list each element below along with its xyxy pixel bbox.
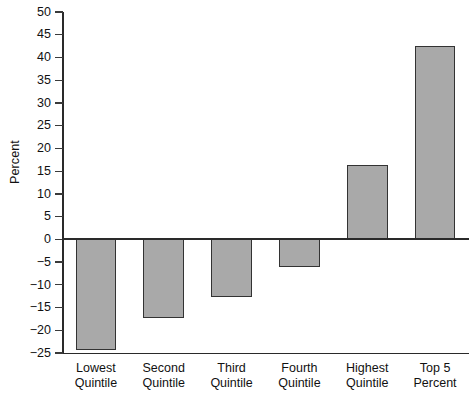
y-tick-mark — [55, 261, 63, 262]
x-axis-label-lowest-quintile: LowestQuintile — [62, 361, 130, 390]
y-tick-label: 10 — [5, 188, 51, 201]
category-label-line: Lowest — [62, 361, 130, 376]
y-axis-line — [62, 12, 64, 354]
category-label-line: Quintile — [198, 376, 266, 391]
category-label-line: Third — [198, 361, 266, 376]
x-axis-label-highest-quintile: HighestQuintile — [333, 361, 401, 390]
y-tick-label: 0 — [5, 233, 51, 246]
x-axis-label-top-5-percent: Top 5Percent — [401, 361, 469, 390]
bar-chart: Percent 50454035302520151050−5−10−15−20−… — [0, 0, 475, 400]
y-tick-label: 20 — [5, 142, 51, 155]
y-tick-label: 40 — [5, 51, 51, 64]
y-tick-mark — [55, 171, 63, 172]
category-label-line: Second — [130, 361, 198, 376]
x-axis-line — [62, 353, 469, 355]
y-tick-label: 50 — [5, 6, 51, 19]
bar-second-quintile — [143, 239, 184, 318]
y-tick-mark — [55, 216, 63, 217]
y-tick-mark — [55, 330, 63, 331]
y-tick-mark — [55, 34, 63, 35]
y-tick-label: −20 — [5, 324, 51, 337]
category-label-line: Quintile — [130, 376, 198, 391]
y-tick-label: −5 — [5, 256, 51, 269]
y-tick-mark — [55, 352, 63, 353]
y-tick-label: 45 — [5, 28, 51, 41]
y-tick-mark — [55, 193, 63, 194]
bar-highest-quintile — [347, 165, 388, 239]
category-label-line: Quintile — [266, 376, 334, 391]
y-tick-label: 15 — [5, 165, 51, 178]
y-tick-label: −15 — [5, 301, 51, 314]
bar-fourth-quintile — [279, 239, 320, 267]
y-tick-label: 5 — [5, 210, 51, 223]
x-axis-label-third-quintile: ThirdQuintile — [198, 361, 266, 390]
bar-lowest-quintile — [76, 239, 117, 349]
y-tick-label: 25 — [5, 119, 51, 132]
y-tick-label: −10 — [5, 279, 51, 292]
category-label-line: Highest — [333, 361, 401, 376]
y-tick-label: 35 — [5, 74, 51, 87]
x-axis-label-second-quintile: SecondQuintile — [130, 361, 198, 390]
category-label-line: Quintile — [62, 376, 130, 391]
bar-top-5-percent — [415, 46, 456, 240]
category-label-line: Top 5 — [401, 361, 469, 376]
bar-third-quintile — [211, 239, 252, 297]
y-tick-mark — [55, 11, 63, 12]
category-label-line: Quintile — [333, 376, 401, 391]
y-tick-mark — [55, 284, 63, 285]
y-tick-label: −25 — [5, 347, 51, 360]
zero-baseline — [62, 238, 469, 240]
y-tick-mark — [55, 57, 63, 58]
y-tick-mark — [55, 307, 63, 308]
y-tick-mark — [55, 148, 63, 149]
y-tick-mark — [55, 80, 63, 81]
category-label-line: Percent — [401, 376, 469, 391]
y-tick-label: 30 — [5, 97, 51, 110]
x-axis-label-fourth-quintile: FourthQuintile — [266, 361, 334, 390]
category-label-line: Fourth — [266, 361, 334, 376]
y-tick-mark — [55, 102, 63, 103]
y-tick-mark — [55, 125, 63, 126]
